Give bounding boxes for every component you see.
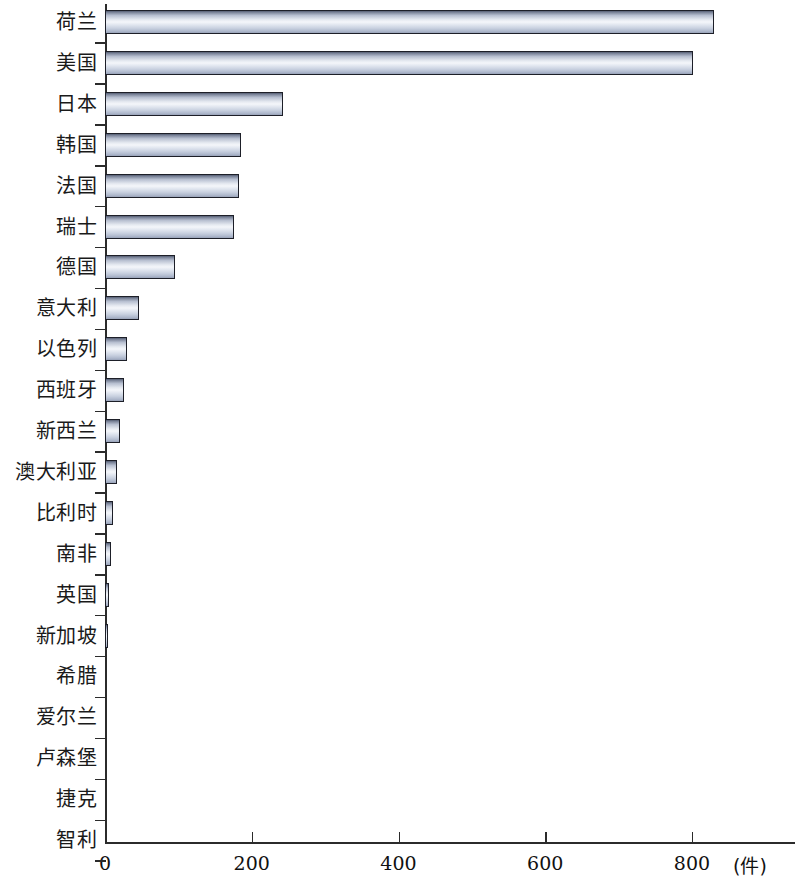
x-axis-tick-label: 600 — [527, 852, 563, 874]
category-label: 德国 — [5, 257, 97, 277]
category-label: 卢森堡 — [5, 748, 97, 768]
category-label: 以色列 — [5, 339, 97, 359]
x-axis-tick-label: 400 — [380, 852, 416, 874]
x-axis-tick-label: 0 — [99, 852, 111, 874]
bar — [105, 10, 714, 34]
category-label: 荷兰 — [5, 12, 97, 32]
category-label: 比利时 — [5, 503, 97, 523]
category-label: 爱尔兰 — [5, 707, 97, 727]
category-label: 英国 — [5, 585, 97, 605]
y-axis-tick — [95, 288, 106, 289]
category-label: 意大利 — [5, 298, 97, 318]
x-axis-tick — [545, 832, 546, 843]
y-axis-tick — [95, 370, 106, 371]
plot-area — [105, 0, 800, 843]
category-label: 新西兰 — [5, 421, 97, 441]
category-label: 新加坡 — [5, 626, 97, 646]
y-axis-tick — [95, 860, 106, 861]
category-label: 日本 — [5, 94, 97, 114]
bar — [105, 583, 109, 607]
bar — [105, 215, 234, 239]
x-axis-tick — [692, 832, 693, 843]
bar — [105, 92, 283, 116]
bar-chart: 荷兰美国日本韩国法国瑞士德国意大利以色列西班牙新西兰澳大利亚比利时南非英国新加坡… — [0, 0, 800, 888]
x-axis-tick-label: 800 — [674, 852, 710, 874]
bar — [105, 378, 124, 402]
y-axis-tick — [95, 329, 106, 330]
x-axis-tick — [252, 832, 253, 843]
x-axis-tick-label: 200 — [234, 852, 270, 874]
y-axis-tick — [95, 574, 106, 575]
y-axis-tick — [95, 820, 106, 821]
y-axis-tick — [95, 533, 106, 534]
category-label: 美国 — [5, 53, 97, 73]
y-axis-tick — [95, 206, 106, 207]
category-label: 瑞士 — [5, 217, 97, 237]
y-axis-tick — [95, 124, 106, 125]
bar — [105, 174, 239, 198]
y-axis-tick — [95, 615, 106, 616]
bar — [105, 255, 175, 279]
bar — [105, 51, 693, 75]
bar — [105, 419, 120, 443]
bar — [105, 460, 117, 484]
category-label: 智利 — [5, 830, 97, 850]
y-axis-tick — [95, 451, 106, 452]
category-label: 法国 — [5, 176, 97, 196]
y-axis-tick — [95, 492, 106, 493]
y-axis-tick — [95, 83, 106, 84]
y-axis-tick — [95, 697, 106, 698]
bar — [105, 542, 111, 566]
y-axis-tick — [95, 165, 106, 166]
bar — [105, 133, 241, 157]
y-axis-tick — [95, 42, 106, 43]
category-label: 西班牙 — [5, 380, 97, 400]
y-axis-tick — [95, 656, 106, 657]
category-label: 希腊 — [5, 666, 97, 686]
category-label: 南非 — [5, 544, 97, 564]
y-axis-tick — [95, 411, 106, 412]
category-label: 韩国 — [5, 135, 97, 155]
category-label: 捷克 — [5, 789, 97, 809]
category-label-column: 荷兰美国日本韩国法国瑞士德国意大利以色列西班牙新西兰澳大利亚比利时南非英国新加坡… — [0, 0, 97, 843]
bar — [105, 624, 108, 648]
y-axis-tick — [95, 779, 106, 780]
bar — [105, 501, 113, 525]
y-axis-tick — [95, 247, 106, 248]
x-axis-tick — [399, 832, 400, 843]
bar — [105, 337, 127, 361]
category-label: 澳大利亚 — [5, 462, 97, 482]
bar — [105, 296, 139, 320]
y-axis-tick — [95, 738, 106, 739]
x-axis-unit-label: (件) — [733, 851, 767, 878]
